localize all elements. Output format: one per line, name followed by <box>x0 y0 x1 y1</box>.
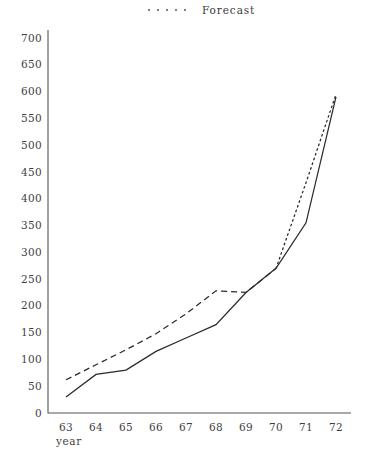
y-axis-tick-label: 650 <box>21 58 42 70</box>
y-axis-tick-label: 300 <box>21 246 42 258</box>
x-axis-tick-label: 68 <box>209 421 223 433</box>
y-axis-tick-label: 500 <box>21 139 42 151</box>
series-line-actual <box>66 97 336 397</box>
x-axis-tick-label: 70 <box>269 421 283 433</box>
x-axis-tick-label: 72 <box>329 421 343 433</box>
y-axis-tick-label: 350 <box>21 219 42 231</box>
y-axis-tick-labels: 0501001502002503003504004505005506006507… <box>21 32 42 419</box>
x-axis-tick-label: 67 <box>179 421 193 433</box>
x-axis-tick-label: 66 <box>149 421 163 433</box>
series-line-forecast-dotted <box>276 94 336 268</box>
series-line-forecast-dashed <box>66 268 276 379</box>
y-axis-tick-label: 100 <box>21 353 42 365</box>
y-axis-tick-label: 200 <box>21 299 42 311</box>
y-axis-tick-label: 50 <box>28 380 42 392</box>
y-axis-tick-label: 250 <box>21 273 42 285</box>
y-axis-tick-label: 550 <box>21 112 42 124</box>
x-axis-tick-label: 71 <box>299 421 313 433</box>
y-axis-tick-label: 150 <box>21 326 42 338</box>
x-axis-tick-label: 69 <box>239 421 253 433</box>
x-axis-tick-label: 64 <box>89 421 103 433</box>
y-axis-tick-label: 700 <box>21 32 42 44</box>
chart-axis-lines <box>48 30 351 413</box>
y-axis-tick-label: 450 <box>21 166 42 178</box>
x-axis-tick-label: 63 <box>59 421 73 433</box>
chart-plot-area: 0501001502002503003504004505005506006507… <box>0 0 373 462</box>
x-axis-title: year <box>55 435 82 447</box>
y-axis-tick-label: 400 <box>21 192 42 204</box>
y-axis-tick-label: 600 <box>21 85 42 97</box>
y-axis-tick-label: 0 <box>35 407 42 419</box>
x-axis-tick-labels: 63646566676869707172 <box>59 421 343 433</box>
x-axis-tick-label: 65 <box>119 421 133 433</box>
chart-container: Forecast 0501001502002503003504004505005… <box>0 0 373 462</box>
